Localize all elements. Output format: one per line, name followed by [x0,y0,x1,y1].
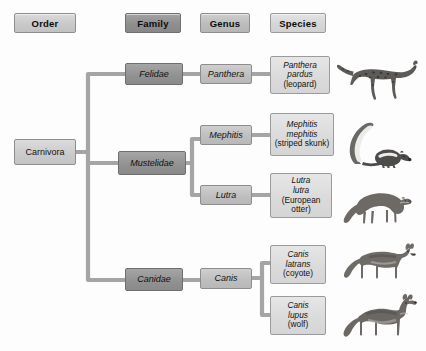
wolf-illustration [340,292,420,344]
node-genus-mephitis: Mephitis [200,125,252,145]
coyote-illustration [340,238,420,286]
wire-canis-latrans [252,263,270,278]
node-genus-panthera: Panthera [200,64,252,84]
wire-mustelidae-mephitis [186,139,200,163]
node-family-canidae: Canidae [125,268,183,291]
column-header-genus: Genus [200,13,250,33]
node-order-carnivora: Carnivora [14,139,76,165]
node-species-canis-lupus: Canis lupus (wolf) [270,296,326,335]
node-family-felidae: Felidae [125,63,183,85]
wire-canis-lupus [252,278,270,315]
taxonomy-diagram: Order Family Genus Species Carnivora Fel… [0,0,426,351]
species-common-name: (leopard) [283,80,316,90]
node-genus-lutra: Lutra [200,185,252,205]
node-species-panthera-pardus: Panthera pardus (leopard) [270,56,330,94]
column-header-family: Family [125,13,181,33]
european-otter-illustration [340,180,418,228]
species-common-name: (striped skunk) [275,139,329,149]
species-common-name: (wolf) [288,320,308,330]
node-species-canis-latrans: Canis latrans (coyote) [270,245,326,284]
leopard-illustration [336,56,422,104]
column-header-species: Species [270,13,326,33]
node-family-mustelidae: Mustelidae [118,151,186,175]
column-header-order: Order [14,13,76,33]
node-genus-canis: Canis [200,268,252,289]
node-species-lutra-lutra: Lutra lutra (European otter) [270,173,332,218]
striped-skunk-illustration [340,110,416,168]
species-common-name: (European otter) [272,196,330,215]
node-species-mephitis-mephitis: Mephitis mephitis (striped skunk) [270,113,334,156]
wire-order-trunk [88,74,98,280]
wire-mustelidae-lutra [186,163,200,195]
species-common-name: (coyote) [283,269,313,279]
